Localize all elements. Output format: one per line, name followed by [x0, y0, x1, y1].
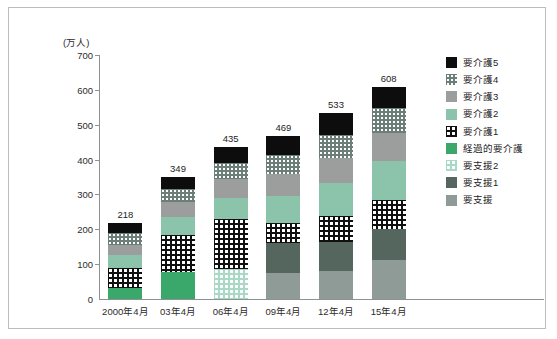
- chart-legend: 要介護5要介護4要介護3要介護2要介護1経過的要介護要支援2要支援1要支援: [446, 54, 546, 209]
- bar-segment-k1[interactable]: [319, 216, 353, 242]
- stacked-bar[interactable]: [108, 223, 142, 299]
- legend-item[interactable]: 要介護1: [446, 123, 546, 140]
- stacked-bar[interactable]: [319, 113, 353, 299]
- bar-segment-s0[interactable]: [372, 260, 406, 299]
- bar-segment-k5[interactable]: [161, 177, 195, 189]
- y-axis-tick-label: 600: [57, 84, 93, 95]
- legend-swatch-k4: [446, 74, 457, 85]
- bar-segment-k5[interactable]: [214, 147, 248, 163]
- bar-segment-s1[interactable]: [266, 243, 300, 274]
- legend-swatch-s2: [446, 160, 457, 171]
- bar-segment-k3[interactable]: [319, 158, 353, 183]
- bar-segment-s2[interactable]: [214, 269, 248, 299]
- bar-segment-k4[interactable]: [372, 108, 406, 133]
- bar-segment-k1[interactable]: [214, 219, 248, 269]
- bar-segment-k5[interactable]: [108, 223, 142, 233]
- bar-segment-kk[interactable]: [108, 288, 142, 300]
- bar-group[interactable]: 533: [319, 55, 353, 299]
- stacked-bar[interactable]: [266, 136, 300, 299]
- bar-value-label: 533: [306, 99, 366, 110]
- bar-segment-k1[interactable]: [161, 235, 195, 272]
- bar-segment-k4[interactable]: [214, 163, 248, 179]
- stacked-bar[interactable]: [161, 177, 195, 299]
- figure-frame: (万人) 0100200300400500600700 218349435469…: [8, 7, 546, 329]
- bar-segment-k4[interactable]: [319, 135, 353, 158]
- y-axis-tick-label: 0: [57, 294, 93, 305]
- legend-label: 要介護3: [463, 92, 498, 102]
- bar-segment-k2[interactable]: [214, 198, 248, 219]
- legend-swatch-kk: [446, 143, 457, 154]
- legend-label: 要介護4: [463, 75, 498, 85]
- bar-segment-k2[interactable]: [108, 255, 142, 269]
- bar-segment-k2[interactable]: [372, 161, 406, 199]
- bar-segment-k2[interactable]: [319, 183, 353, 216]
- bar-value-label: 469: [253, 122, 313, 133]
- bar-value-label: 349: [148, 163, 208, 174]
- stacked-bar[interactable]: [214, 147, 248, 299]
- legend-item[interactable]: 要支援: [446, 192, 546, 209]
- y-axis-tick-label: 700: [57, 50, 93, 61]
- bar-segment-s0[interactable]: [319, 271, 353, 299]
- y-axis-tick-label: 100: [57, 259, 93, 270]
- bar-value-label: 608: [359, 73, 419, 84]
- bar-segment-s0[interactable]: [266, 273, 300, 299]
- bar-value-label: 435: [201, 133, 261, 144]
- bar-segment-k4[interactable]: [108, 233, 142, 245]
- legend-label: 要支援2: [463, 161, 498, 171]
- bar-segment-k3[interactable]: [372, 133, 406, 161]
- bar-segment-s1[interactable]: [319, 242, 353, 272]
- legend-item[interactable]: 要介護5: [446, 54, 546, 71]
- bar-segment-k2[interactable]: [266, 196, 300, 222]
- bar-segment-k5[interactable]: [266, 136, 300, 156]
- bar-segment-k5[interactable]: [319, 113, 353, 134]
- legend-swatch-k5: [446, 57, 457, 68]
- y-axis-tick-label: 400: [57, 154, 93, 165]
- legend-label: 要支援1: [463, 178, 498, 188]
- plot-area: 218349435469533608: [99, 55, 415, 299]
- x-axis-tick-label: 15年4月: [344, 304, 434, 318]
- legend-item[interactable]: 要支援2: [446, 157, 546, 174]
- bar-segment-k1[interactable]: [266, 223, 300, 243]
- legend-swatch-k2: [446, 109, 457, 120]
- legend-item[interactable]: 要介護3: [446, 88, 546, 105]
- bar-segment-kk[interactable]: [161, 272, 195, 299]
- bar-group[interactable]: 435: [214, 55, 248, 299]
- bar-segment-k4[interactable]: [266, 155, 300, 174]
- x-axis-line: [99, 299, 544, 300]
- bar-group[interactable]: 349: [161, 55, 195, 299]
- y-axis-tick-label: 200: [57, 224, 93, 235]
- legend-label: 要介護1: [463, 127, 498, 137]
- legend-label: 経過的要介護: [463, 144, 523, 154]
- legend-item[interactable]: 経過的要介護: [446, 140, 546, 157]
- bar-value-label: 218: [95, 209, 155, 220]
- bar-group[interactable]: 469: [266, 55, 300, 299]
- bar-group[interactable]: 608: [372, 55, 406, 299]
- legend-item[interactable]: 要支援1: [446, 174, 546, 191]
- y-axis-unit-label: (万人): [63, 35, 89, 49]
- bar-group[interactable]: 218: [108, 55, 142, 299]
- legend-swatch-s1: [446, 177, 457, 188]
- legend-item[interactable]: 要介護2: [446, 106, 546, 123]
- legend-label: 要介護5: [463, 58, 498, 68]
- bar-segment-s1[interactable]: [372, 229, 406, 260]
- bar-segment-k3[interactable]: [161, 202, 195, 217]
- bar-segment-k4[interactable]: [161, 189, 195, 202]
- legend-label: 要介護2: [463, 109, 498, 119]
- bar-segment-k3[interactable]: [266, 174, 300, 196]
- legend-swatch-s0: [446, 195, 457, 206]
- bar-segment-k5[interactable]: [372, 87, 406, 108]
- bar-segment-k2[interactable]: [161, 217, 195, 234]
- legend-swatch-k1: [446, 126, 457, 137]
- legend-swatch-k3: [446, 91, 457, 102]
- bar-segment-k1[interactable]: [372, 200, 406, 229]
- stacked-bar[interactable]: [372, 87, 406, 299]
- legend-item[interactable]: 要介護4: [446, 71, 546, 88]
- bar-segment-k3[interactable]: [214, 179, 248, 197]
- y-axis-tick-label: 300: [57, 189, 93, 200]
- bar-segment-k1[interactable]: [108, 268, 142, 287]
- legend-label: 要支援: [463, 195, 493, 205]
- y-axis-tick-label: 500: [57, 119, 93, 130]
- bar-segment-k3[interactable]: [108, 245, 142, 255]
